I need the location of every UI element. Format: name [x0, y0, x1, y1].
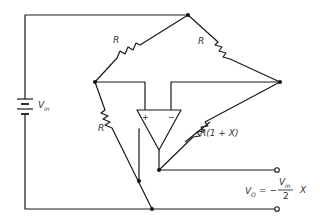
out-v-sub: O	[251, 191, 256, 198]
frac-den: 2	[283, 191, 289, 201]
node-right	[278, 80, 282, 84]
r-bottom-right-label: R(1 + X)	[200, 128, 238, 138]
node-feedback	[137, 179, 141, 183]
resistor-bottom-left	[95, 82, 152, 209]
r-top-left-label: R	[113, 35, 119, 45]
resistor-top-right	[188, 15, 280, 82]
output-terminal-top	[275, 168, 280, 173]
bridge-circuit-diagram: V in R R + − R R(1 + X) V O = − V in 2 X	[0, 0, 320, 220]
node-output	[157, 168, 161, 172]
node-bottom	[150, 207, 154, 211]
resistor-top-left	[95, 15, 188, 82]
wire-feedback	[139, 129, 140, 181]
wire-top	[25, 15, 188, 99]
out-x: X	[299, 185, 307, 195]
wire-left-bottom	[25, 114, 152, 209]
output-equation: V O = − V in 2 X	[245, 177, 307, 201]
wire-to-minus-input	[171, 82, 280, 110]
op-amp-plus: +	[142, 113, 149, 122]
resistor-bottom-right	[159, 82, 280, 170]
r-top-right-label: R	[198, 36, 204, 46]
op-amp-minus: −	[168, 113, 175, 122]
battery-symbol	[17, 99, 33, 114]
output-terminal-bottom	[275, 207, 280, 212]
node-left	[93, 80, 97, 84]
source-label-sub: in	[44, 105, 50, 112]
node-top	[186, 13, 190, 17]
wire-to-plus-input	[95, 82, 145, 110]
frac-num-sub: in	[285, 182, 291, 189]
r-bottom-left-label: R	[98, 123, 104, 133]
out-eq: = −	[259, 185, 277, 195]
